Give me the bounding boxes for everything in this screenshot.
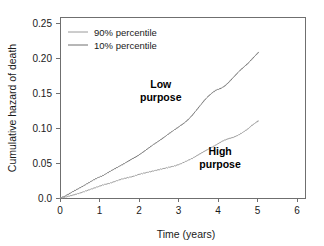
- annotation-2-line1: High: [208, 145, 231, 157]
- curve-annotations: LowpurposeHighpurpose: [140, 78, 241, 170]
- chart-legend: 90% percentile10% percentile: [68, 27, 157, 51]
- data-series: [60, 52, 258, 198]
- annotation-1-line2: purpose: [140, 91, 182, 103]
- y-tick-label: 0.10: [33, 123, 53, 134]
- annotation-2-line2: purpose: [199, 158, 241, 170]
- legend-label-2: 10% percentile: [94, 40, 157, 51]
- annotation-1-line1: Low: [150, 78, 172, 90]
- y-tick-label: 0.20: [33, 53, 53, 64]
- x-tick-label: 4: [215, 205, 221, 216]
- y-tick-label: 0.0: [38, 193, 52, 204]
- y-tick-label: 0.15: [33, 88, 53, 99]
- y-tick-label: 0.25: [33, 18, 53, 29]
- axis-ticks: [56, 24, 297, 202]
- x-tick-label: 5: [255, 205, 261, 216]
- x-axis-title: Time (years): [157, 228, 216, 240]
- y-tick-label: 0.05: [33, 158, 53, 169]
- series-line-1: [60, 52, 258, 198]
- x-tick-label: 1: [97, 205, 103, 216]
- legend-label-1: 90% percentile: [94, 27, 157, 38]
- chart-canvas: 01234560.00.050.100.150.200.25 90% perce…: [0, 0, 324, 246]
- y-axis-title: Cumulative hazard of death: [6, 44, 18, 173]
- x-tick-label: 2: [136, 205, 142, 216]
- axis-tick-labels: 01234560.00.050.100.150.200.25: [33, 18, 301, 216]
- x-tick-label: 3: [176, 205, 182, 216]
- cumulative-hazard-chart: 01234560.00.050.100.150.200.25 90% perce…: [0, 0, 324, 246]
- x-tick-label: 6: [294, 205, 300, 216]
- x-tick-label: 0: [57, 205, 63, 216]
